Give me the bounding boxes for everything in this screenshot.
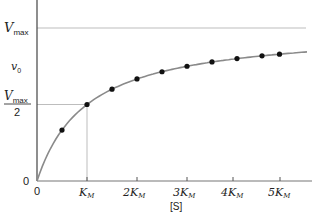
y-zero-label: 0 — [23, 175, 29, 187]
data-point — [234, 56, 239, 61]
michaelis-menten-chart: Vmax v0 Vmax 2 0 0 KM 2KM 3KM 4KM 5KM [S… — [0, 0, 312, 218]
half-vmax-numerator: Vmax — [4, 89, 28, 105]
vmax-label: Vmax — [4, 20, 29, 37]
km-tick-label: KM — [78, 186, 95, 200]
data-point — [59, 127, 64, 132]
half-vmax-denominator: 2 — [14, 106, 20, 118]
data-point — [159, 69, 164, 74]
data-points — [59, 52, 282, 133]
michaelis-menten-curve — [37, 52, 307, 181]
4km-tick-label: 4KM — [220, 186, 244, 200]
x-zero-label: 0 — [34, 185, 40, 197]
data-point — [277, 52, 282, 57]
data-point — [209, 59, 214, 64]
data-point — [184, 64, 189, 69]
data-point — [109, 87, 114, 92]
data-point — [134, 76, 139, 81]
x-axis-label: [S] — [170, 201, 182, 212]
v0-label: v0 — [11, 60, 21, 74]
3km-tick-label: 3KM — [173, 186, 196, 200]
5km-tick-label: 5KM — [268, 186, 291, 200]
2km-tick-label: 2KM — [122, 186, 146, 200]
data-point — [84, 102, 89, 107]
data-point — [259, 53, 264, 58]
